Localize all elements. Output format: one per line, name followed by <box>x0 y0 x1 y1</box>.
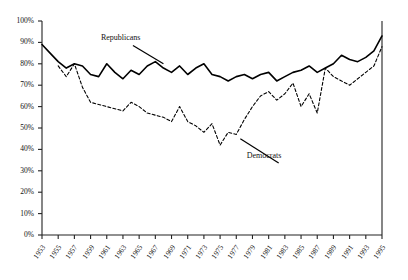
axes <box>38 21 382 239</box>
data-series-layer <box>42 36 382 145</box>
y-tick-label: 50% <box>0 124 34 132</box>
annotation-democrats: Democrats <box>247 151 282 160</box>
line-chart-plot <box>0 0 408 280</box>
y-tick-label: 80% <box>0 60 34 68</box>
series-line-democrats <box>58 47 382 145</box>
y-tick-label: 70% <box>0 81 34 89</box>
y-tick-label: 20% <box>0 188 34 196</box>
y-tick-label: 100% <box>0 17 34 25</box>
y-tick-label: 90% <box>0 38 34 46</box>
y-tick-label: 30% <box>0 167 34 175</box>
chart-container: 100%90%80%70%60%50%40%30%20%10%0% 195319… <box>0 0 408 280</box>
annotation-republicans: Republicans <box>101 33 141 42</box>
y-tick-label: 40% <box>0 145 34 153</box>
y-tick-label: 60% <box>0 103 34 111</box>
annotation-leader-lines <box>133 45 279 163</box>
y-tick-label: 0% <box>0 231 34 239</box>
y-tick-label: 10% <box>0 210 34 218</box>
